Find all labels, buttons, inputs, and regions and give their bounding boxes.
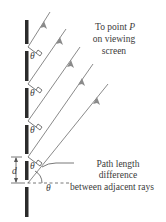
- theta-label: θ: [30, 161, 35, 171]
- theta-label: θ: [30, 88, 35, 98]
- arrow-icon: [56, 37, 63, 45]
- path-diff-line3: between adjacent rays: [70, 182, 154, 192]
- grating-wall: [25, 20, 29, 217]
- path-diff-line2: difference: [99, 170, 137, 180]
- theta-labels: θ θ θ θ θ: [30, 51, 51, 193]
- point-p-symbol: P: [128, 22, 135, 32]
- theta-angle-label: θ: [46, 183, 51, 193]
- spacing-indicator: d: [11, 157, 22, 183]
- diffraction-grating-diagram: θ θ θ θ θ d To point P on viewing screen…: [0, 0, 166, 222]
- path-diff-annotation: Path length difference between adjacent …: [70, 159, 154, 192]
- ray-arrows: [40, 21, 100, 105]
- path-diff-leader: [42, 163, 74, 167]
- perpendiculars: [28, 47, 42, 166]
- path-diff-line1: Path length: [96, 159, 139, 169]
- arrow-icon: [40, 21, 47, 29]
- theta-label: θ: [30, 125, 35, 135]
- to-point-prefix: To point: [95, 22, 129, 32]
- to-point-line3: screen: [102, 46, 127, 56]
- theta-label: θ: [30, 51, 35, 61]
- spacing-label: d: [12, 166, 17, 176]
- ray-3: [28, 47, 80, 121]
- ray-1: [28, 12, 50, 47]
- to-point-annotation: To point P on viewing screen: [93, 22, 136, 56]
- to-point-line2: on viewing: [93, 34, 136, 44]
- svg-text:To point P: To point P: [95, 22, 135, 32]
